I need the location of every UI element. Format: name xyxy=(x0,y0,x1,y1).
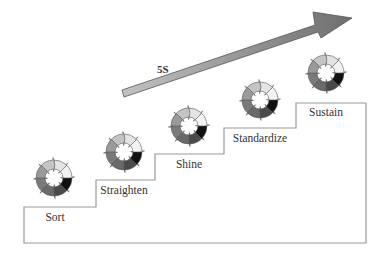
5s-label: 5S xyxy=(157,63,169,75)
5s-staircase-diagram: 5S Sort Straighten Shine Standardize Sus… xyxy=(0,0,385,255)
step-label-sort: Sort xyxy=(45,211,64,223)
cycle-icon-sustain xyxy=(305,52,347,94)
cycle-icon-sort xyxy=(33,157,75,199)
step-label-straighten: Straighten xyxy=(100,184,147,196)
step-label-shine: Shine xyxy=(176,158,202,170)
cycle-icon-standardize xyxy=(239,79,281,121)
step-label-standardize: Standardize xyxy=(233,132,287,144)
step-label-sustain: Sustain xyxy=(309,106,343,118)
cycle-icon-shine xyxy=(168,105,210,147)
cycle-icon-straighten xyxy=(103,131,145,173)
